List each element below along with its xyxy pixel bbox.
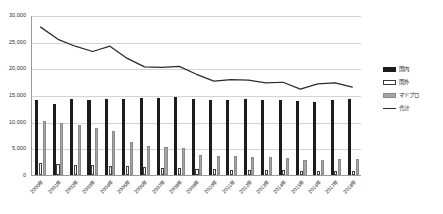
x-axis: 2000年2001年2002年2003年2004年2005年2006年2007年…	[31, 176, 361, 214]
legend-label: マドプロ	[399, 93, 419, 98]
x-tick-label: 2014年	[273, 179, 288, 194]
y-tick-label: 0	[23, 173, 26, 178]
legend-label: 国外	[399, 80, 409, 85]
x-tick-label: 2000年	[30, 179, 45, 194]
legend-item[interactable]: マドプロ	[383, 89, 443, 102]
x-tick-label: 2004年	[99, 179, 114, 194]
x-tick-label: 2003年	[82, 179, 97, 194]
x-tick-label: 2013年	[255, 179, 270, 194]
x-tick-label: 2018年	[342, 179, 357, 194]
x-tick-label: 2016年	[307, 179, 322, 194]
line-swatch-icon	[383, 108, 396, 109]
x-tick-label: 2007年	[151, 179, 166, 194]
x-tick-label: 2002年	[64, 179, 79, 194]
legend-item[interactable]: 国内	[383, 63, 443, 76]
x-tick-label: 2001年	[47, 179, 62, 194]
x-tick-label: 2012年	[238, 179, 253, 194]
x-tick-label: 2009年	[186, 179, 201, 194]
x-tick-label: 2017年	[325, 179, 340, 194]
y-axis: 05,00010,00015,00020,00025,00030,000	[0, 0, 29, 214]
y-tick-label: 30,000	[9, 13, 26, 18]
bar-white-swatch-icon	[383, 80, 396, 84]
legend-label: 合計	[399, 106, 409, 111]
chart-container: 05,00010,00015,00020,00025,00030,000 200…	[0, 0, 443, 214]
legend-label: 国内	[399, 67, 409, 72]
x-tick-label: 2011年	[221, 179, 236, 194]
x-tick-label: 2010年	[203, 179, 218, 194]
y-tick-label: 20,000	[9, 67, 26, 72]
y-tick-label: 25,000	[9, 40, 26, 45]
legend-item[interactable]: 国外	[383, 76, 443, 89]
chart-legend: 国内国外マドプロ合計	[383, 63, 443, 115]
plot-area	[31, 16, 361, 176]
legend-item[interactable]: 合計	[383, 102, 443, 115]
total-line-path	[41, 27, 353, 89]
x-tick-label: 2006年	[134, 179, 149, 194]
y-tick-label: 5,000	[12, 147, 26, 152]
bar-black-swatch-icon	[383, 67, 396, 71]
x-tick-label: 2015年	[290, 179, 305, 194]
y-tick-label: 10,000	[9, 120, 26, 125]
total-line-layer	[32, 16, 361, 175]
bar-gray-swatch-icon	[383, 93, 396, 97]
y-tick-label: 15,000	[9, 93, 26, 98]
x-tick-label: 2008年	[169, 179, 184, 194]
total-line-svg	[32, 16, 361, 175]
x-tick-label: 2005年	[116, 179, 131, 194]
